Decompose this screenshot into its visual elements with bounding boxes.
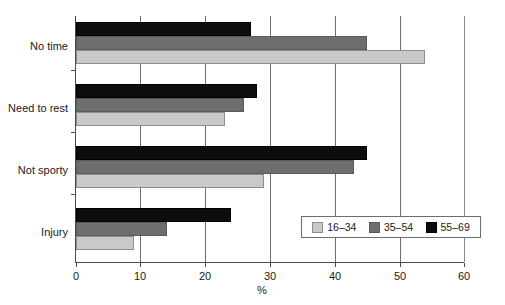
y-axis-tick-2 xyxy=(71,194,76,195)
x-axis-title: % xyxy=(242,284,282,296)
legend-swatch-icon-55-69 xyxy=(426,222,437,233)
y-axis-label-2: Not sporty xyxy=(18,164,68,176)
x-axis-tick-40 xyxy=(335,263,336,267)
bar-not-sporty-16-34 xyxy=(76,174,264,188)
x-axis-tick-50 xyxy=(400,263,401,267)
chart-legend: 16–34 35–54 55–69 xyxy=(301,216,481,238)
legend-label-35-54: 35–54 xyxy=(384,221,413,233)
legend-item-35-54: 35–54 xyxy=(369,221,413,233)
legend-label-55-69: 55–69 xyxy=(441,221,470,233)
bar-injury-16-34 xyxy=(76,236,134,250)
legend-swatch-icon-16-34 xyxy=(312,222,323,233)
bar-no-time-16-34 xyxy=(76,50,425,64)
legend-item-16-34: 16–34 xyxy=(312,221,356,233)
bar-injury-35-54 xyxy=(76,222,167,236)
bar-need-to-rest-55-69 xyxy=(76,84,257,98)
x-axis-tick-label-4: 40 xyxy=(315,270,355,283)
legend-label-16-34: 16–34 xyxy=(327,221,356,233)
bar-no-time-35-54 xyxy=(76,36,367,50)
x-axis-tick-60 xyxy=(464,263,465,267)
y-axis-category-labels: No time Need to rest Not sporty Injury xyxy=(0,16,68,263)
bar-chart: No time Need to rest Not sporty Injury xyxy=(0,0,505,305)
y-axis-label-1: Need to rest xyxy=(8,102,68,114)
x-axis-tick-10 xyxy=(140,263,141,267)
bar-need-to-rest-35-54 xyxy=(76,98,244,112)
x-axis-tick-label-1: 10 xyxy=(120,270,160,283)
x-axis-tick-label-0: 0 xyxy=(56,270,96,283)
bar-need-to-rest-16-34 xyxy=(76,112,225,126)
bar-injury-55-69 xyxy=(76,208,231,222)
y-axis-tick-1 xyxy=(71,132,76,133)
x-axis-tick-label-5: 50 xyxy=(380,270,420,283)
bar-not-sporty-35-54 xyxy=(76,160,354,174)
x-axis-tick-label-6: 60 xyxy=(444,270,484,283)
x-axis-tick-label-3: 30 xyxy=(250,270,290,283)
y-axis-label-3: Injury xyxy=(41,226,68,238)
x-axis-tick-0 xyxy=(76,263,77,267)
legend-item-55-69: 55–69 xyxy=(426,221,470,233)
x-axis-tick-label-2: 20 xyxy=(185,270,225,283)
legend-swatch-icon-35-54 xyxy=(369,222,380,233)
y-axis-label-0: No time xyxy=(30,40,68,52)
bar-not-sporty-55-69 xyxy=(76,146,367,160)
x-axis-tick-20 xyxy=(205,263,206,267)
x-axis-tick-30 xyxy=(270,263,271,267)
y-axis-tick-0 xyxy=(71,70,76,71)
bar-no-time-55-69 xyxy=(76,22,251,36)
